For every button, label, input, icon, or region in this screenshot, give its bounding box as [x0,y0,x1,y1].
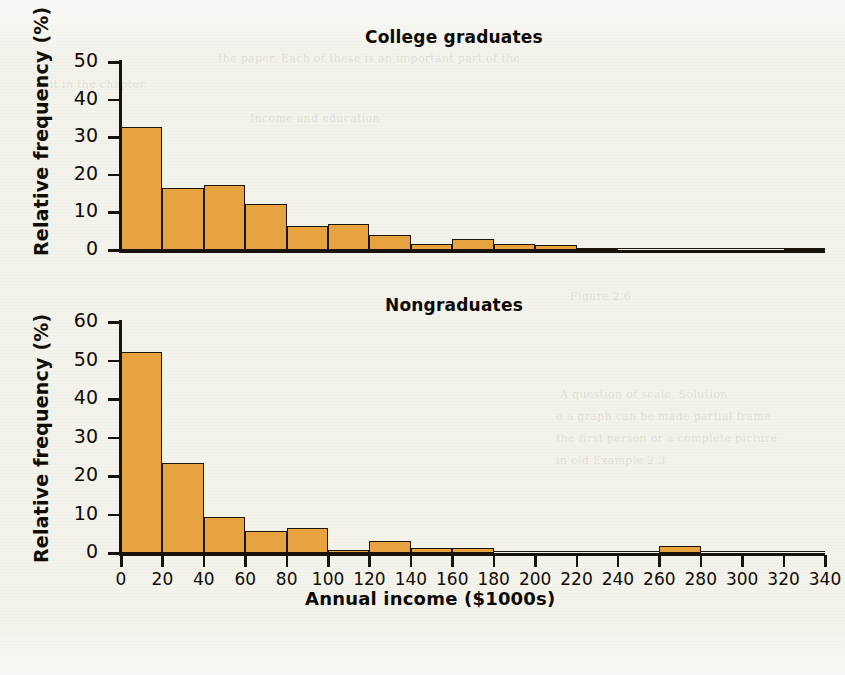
x-axis-label: Annual income ($1000s) [305,588,555,609]
y-tick [108,211,121,214]
x-tick-label: 300 [720,569,764,589]
x-tick-label: 0 [99,569,143,589]
y-tick [108,136,121,139]
histogram-bar [245,204,286,250]
histogram-bar [162,463,203,553]
histogram-bar [535,551,576,553]
histogram-bar [287,226,328,250]
y-tick [108,174,121,177]
histogram-bar [577,248,618,250]
x-tick [741,555,744,567]
y-tick [108,321,121,324]
x-tick [327,555,330,567]
y-tick-label: 20 [58,463,98,485]
x-tick-label: 80 [265,569,309,589]
y-tick [108,360,121,363]
y-tick-label: 20 [58,162,98,184]
x-tick [824,555,827,567]
histogram-bar [701,551,742,553]
x-tick [700,555,703,567]
histogram-bar [328,550,369,553]
x-tick [244,555,247,567]
histogram-bar [618,248,659,250]
x-tick-label: 20 [140,569,184,589]
y-tick-label: 30 [58,425,98,447]
histogram-bar [411,548,452,553]
histogram-bar [162,188,203,250]
histogram-bar [411,244,452,250]
y-tick [108,61,121,64]
histogram-bar [328,224,369,250]
histogram-bar [535,245,576,250]
x-tick [451,555,454,567]
y-tick [108,99,121,102]
x-tick [658,555,661,567]
histogram-bar [659,248,700,250]
histogram-bar [369,541,410,553]
histogram-bar [784,551,825,553]
x-tick [203,555,206,567]
histogram-bar [494,551,535,553]
x-tick-label: 60 [223,569,267,589]
x-tick [286,555,289,567]
histogram-bar [204,517,245,553]
x-tick-label: 200 [513,569,557,589]
histogram-bar [121,352,162,553]
y-tick-label: 50 [58,348,98,370]
x-tick [368,555,371,567]
histogram-bar [369,235,410,250]
x-tick [617,555,620,567]
x-tick-label: 40 [182,569,226,589]
y-tick-label: 0 [58,237,98,259]
y-tick-label: 10 [58,199,98,221]
y-tick [108,514,121,517]
y-tick-label: 10 [58,502,98,524]
y-tick [108,398,121,401]
x-tick-label: 140 [389,569,433,589]
histogram-bar [742,248,783,250]
x-tick-label: 180 [472,569,516,589]
x-tick-label: 120 [347,569,391,589]
histogram-bar [452,239,493,250]
histogram-bar [659,546,700,553]
histogram-bar [701,248,742,250]
histogram-bar [245,531,286,553]
y-tick-label: 60 [58,309,98,331]
y-tick [108,475,121,478]
x-tick-label: 240 [596,569,640,589]
histogram-bar [784,248,825,250]
y-tick-label: 40 [58,386,98,408]
x-tick [576,555,579,567]
x-tick [783,555,786,567]
x-tick-label: 320 [762,569,806,589]
chart-nongraduates: Nongraduates Relative frequency (%) 0102… [0,290,845,675]
histogram-bar [494,244,535,250]
x-tick [493,555,496,567]
y-tick-label: 0 [58,540,98,562]
y-tick-label: 40 [58,87,98,109]
histogram-bar [742,551,783,553]
x-tick-label: 340 [803,569,845,589]
y-tick-label: 30 [58,124,98,146]
histogram-bar [618,551,659,553]
plot-area-college-graduates: 01020304050 [0,0,845,290]
y-tick [108,249,121,252]
x-tick-label: 100 [306,569,350,589]
x-tick-label: 260 [637,569,681,589]
x-tick [120,555,123,567]
histogram-bar [121,127,162,250]
x-tick-label: 280 [679,569,723,589]
histogram-bar [452,548,493,553]
y-tick [108,437,121,440]
chart-college-graduates: College graduates Relative frequency (%)… [0,0,845,290]
histogram-bar [577,551,618,553]
y-tick-label: 50 [58,49,98,71]
histogram-bar [204,185,245,250]
x-tick-label: 160 [430,569,474,589]
plot-area-nongraduates: 0102030405060 02040608010012014016018020… [0,290,845,675]
x-tick [534,555,537,567]
x-axis-line-nongrad [119,553,825,556]
x-tick [410,555,413,567]
x-axis-line-college [119,250,825,253]
x-tick [161,555,164,567]
